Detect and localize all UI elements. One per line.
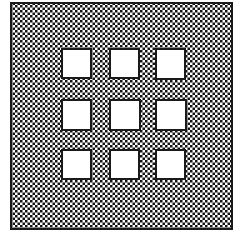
technical-drawing (0, 0, 243, 240)
aperture-r1c2 (110, 49, 139, 78)
aperture-r2c1 (62, 100, 91, 130)
aperture-r1c3 (156, 49, 185, 79)
aperture-r1c1 (62, 49, 91, 78)
aperture-r3c1 (62, 150, 91, 179)
aperture-r3c2 (110, 150, 139, 179)
figure-canvas (0, 0, 243, 240)
square-aperture-grid (62, 49, 186, 179)
aperture-r2c2 (110, 100, 140, 130)
aperture-r3c3 (156, 150, 185, 179)
aperture-r2c3 (156, 100, 186, 130)
